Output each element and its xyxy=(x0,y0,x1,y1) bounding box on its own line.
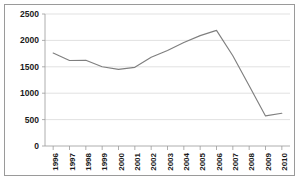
y-axis-label-1500: 1500 xyxy=(20,62,39,72)
data-series-line xyxy=(53,30,282,116)
x-axis-label-2004: 2004 xyxy=(182,152,191,170)
x-axis-label-2006: 2006 xyxy=(215,152,224,170)
chart-frame: 0500100015002000250019961997199819992000… xyxy=(4,4,295,176)
x-axis-label-2008: 2008 xyxy=(247,152,256,170)
y-axis-label-2000: 2000 xyxy=(20,35,39,45)
x-axis-label-2003: 2003 xyxy=(166,152,175,170)
x-axis-label-2000: 2000 xyxy=(117,152,126,170)
x-axis-label-2007: 2007 xyxy=(231,152,240,170)
x-axis-label-1999: 1999 xyxy=(100,152,109,170)
x-axis-label-1996: 1996 xyxy=(51,152,60,170)
y-axis-label-2500: 2500 xyxy=(20,9,39,19)
x-axis-label-1998: 1998 xyxy=(84,152,93,170)
line-chart: 0500100015002000250019961997199819992000… xyxy=(5,5,296,177)
x-axis-label-1997: 1997 xyxy=(68,152,77,170)
x-axis-label-2001: 2001 xyxy=(133,152,142,170)
x-axis-label-2009: 2009 xyxy=(264,152,273,170)
y-axis-label-500: 500 xyxy=(25,115,39,125)
x-axis-label-2002: 2002 xyxy=(149,152,158,170)
y-axis-label-0: 0 xyxy=(34,141,39,151)
chart-plot-area: 0500100015002000250019961997199819992000… xyxy=(5,5,294,175)
y-axis-label-1000: 1000 xyxy=(20,88,39,98)
x-axis-label-2010: 2010 xyxy=(280,152,289,170)
x-axis-label-2005: 2005 xyxy=(198,152,207,170)
